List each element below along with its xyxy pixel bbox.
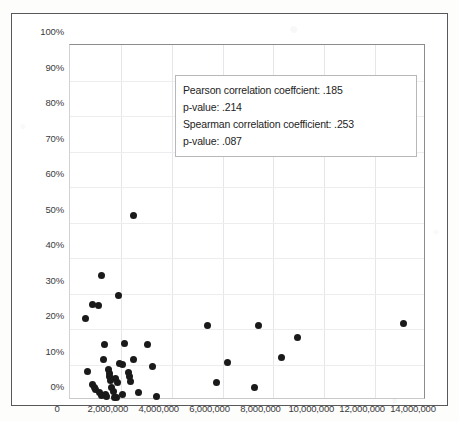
statistics-annotation-box: Pearson correlation coeffcient: .185 p-v… bbox=[175, 75, 417, 157]
x-tick-label: 10,000,000 bbox=[289, 403, 335, 414]
scatter-point bbox=[121, 340, 128, 347]
gridline-horizontal bbox=[70, 294, 424, 295]
scatter-point bbox=[278, 354, 285, 361]
x-axis-tick-labels: 02,000,0004,000,0006,000,0008,000,00010,… bbox=[12, 403, 447, 419]
scatter-point bbox=[114, 379, 121, 386]
scatter-point bbox=[116, 360, 123, 367]
x-tick-label: 8,000,000 bbox=[240, 403, 280, 414]
scatter-point bbox=[84, 368, 91, 375]
scatter-point bbox=[400, 320, 407, 327]
y-tick-label: 10% bbox=[45, 345, 64, 356]
scatter-point bbox=[115, 292, 122, 299]
y-tick-label: 40% bbox=[45, 239, 64, 250]
scatter-point bbox=[144, 341, 151, 348]
x-tick-label: 12,000,000 bbox=[339, 403, 385, 414]
gridline-horizontal bbox=[70, 258, 424, 259]
pearson-correlation-text: Pearson correlation coeffcient: .185 bbox=[183, 83, 408, 97]
y-tick-label: 50% bbox=[45, 203, 64, 214]
scatter-point bbox=[294, 334, 301, 341]
scatter-point bbox=[255, 322, 262, 329]
x-tick-label: 0 bbox=[54, 403, 59, 414]
y-tick-label: 90% bbox=[45, 61, 64, 72]
x-tick-label: 4,000,000 bbox=[138, 403, 178, 414]
y-tick-label: 30% bbox=[45, 274, 64, 285]
y-tick-label: 0% bbox=[51, 381, 64, 392]
spearman-correlation-text: Spearman correlation coefficient: .253 bbox=[183, 117, 408, 131]
scatter-point bbox=[130, 356, 137, 363]
scatter-point bbox=[95, 302, 102, 309]
scatter-point bbox=[213, 379, 220, 386]
gridline-vertical bbox=[172, 45, 173, 398]
scatter-point bbox=[153, 393, 160, 400]
scatter-point bbox=[98, 272, 105, 279]
scatter-point bbox=[204, 322, 211, 329]
scatter-point bbox=[82, 315, 89, 322]
pearson-pvalue-text: p-value: .214 bbox=[183, 100, 408, 114]
gridline-horizontal bbox=[70, 223, 424, 224]
x-tick-label: 14,000,000 bbox=[390, 403, 436, 414]
y-tick-label: 60% bbox=[45, 168, 64, 179]
scatter-plot-figure: 0%10%20%30%40%50%60%70%80%90%100% 02,000… bbox=[0, 0, 459, 422]
gridline-horizontal bbox=[70, 329, 424, 330]
scatter-point bbox=[135, 389, 142, 396]
scatter-point bbox=[113, 394, 120, 401]
y-axis-tick-labels: 0%10%20%30%40%50%60%70%80%90%100% bbox=[12, 14, 64, 405]
gridline-horizontal bbox=[70, 187, 424, 188]
scatter-point bbox=[127, 378, 134, 385]
scatter-point bbox=[101, 341, 108, 348]
y-tick-label: 70% bbox=[45, 132, 64, 143]
chart-frame: 0%10%20%30%40%50%60%70%80%90%100% 02,000… bbox=[11, 13, 448, 406]
scatter-point bbox=[251, 384, 258, 391]
y-tick-label: 100% bbox=[40, 26, 64, 37]
y-tick-label: 80% bbox=[45, 97, 64, 108]
scatter-point bbox=[103, 393, 110, 400]
y-tick-label: 20% bbox=[45, 310, 64, 321]
x-tick-label: 2,000,000 bbox=[88, 403, 128, 414]
scatter-point bbox=[149, 363, 156, 370]
scatter-point bbox=[100, 356, 107, 363]
spearman-pvalue-text: p-value: .087 bbox=[183, 134, 408, 148]
scatter-point bbox=[130, 212, 137, 219]
x-tick-label: 6,000,000 bbox=[189, 403, 229, 414]
